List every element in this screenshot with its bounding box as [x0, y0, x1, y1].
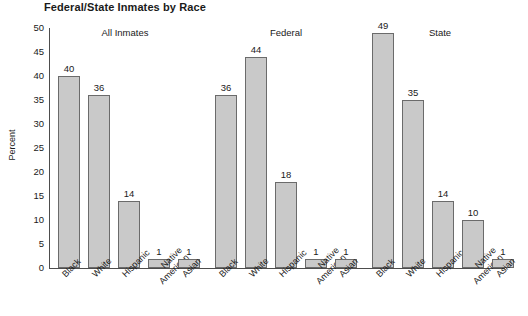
y-tick-30: 30	[20, 119, 44, 129]
y-tick-0: 0	[20, 263, 44, 273]
y-tick-5: 5	[20, 239, 44, 249]
bar-value-label: 14	[114, 189, 144, 199]
y-tick-45: 45	[20, 47, 44, 57]
bar	[58, 76, 80, 268]
bar-value-label: 1	[331, 247, 361, 257]
chart-title: Federal/State Inmates by Race	[44, 1, 206, 13]
y-tick-25: 25	[20, 143, 44, 153]
bar-value-label: 35	[398, 88, 428, 98]
bar-value-label: 10	[458, 208, 488, 218]
bar-value-label: 14	[428, 189, 458, 199]
bar	[215, 95, 237, 268]
bar-value-label: 1	[488, 247, 518, 257]
group-title-state: State	[380, 27, 500, 38]
y-axis-line	[49, 28, 50, 269]
y-tick-15: 15	[20, 191, 44, 201]
bar	[245, 57, 267, 268]
y-tick-50: 50	[20, 23, 44, 33]
bar-value-label: 36	[84, 83, 114, 93]
bar-value-label: 18	[271, 170, 301, 180]
bar-value-label: 36	[211, 83, 241, 93]
bar	[372, 33, 394, 268]
y-tick-20: 20	[20, 167, 44, 177]
group-title-federal: Federal	[226, 27, 346, 38]
y-tick-35: 35	[20, 95, 44, 105]
bar-value-label: 44	[241, 45, 271, 55]
bar-value-label: 40	[54, 64, 84, 74]
bar-value-label: 1	[174, 247, 204, 257]
bar-chart: Federal/State Inmates by Race Percent 50…	[0, 0, 528, 316]
bar	[88, 95, 110, 268]
bar-value-label: 49	[368, 21, 398, 31]
group-title-all-inmates: All Inmates	[65, 27, 185, 38]
bar	[402, 100, 424, 268]
y-axis-title: Percent	[7, 115, 17, 175]
y-tick-10: 10	[20, 215, 44, 225]
y-tick-40: 40	[20, 71, 44, 81]
